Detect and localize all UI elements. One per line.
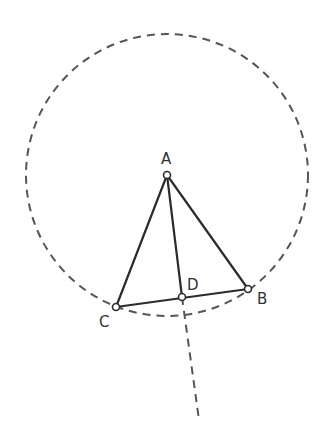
point-b: [245, 286, 252, 293]
point-a: [164, 172, 171, 179]
extension-rays: [182, 297, 199, 420]
geometry-diagram: ABCD: [0, 0, 320, 447]
point-c: [113, 304, 120, 311]
label-a: A: [161, 150, 172, 168]
label-b: B: [257, 290, 267, 308]
triangle-segments: [116, 175, 248, 307]
label-d: D: [187, 276, 199, 294]
segment-ac: [116, 175, 167, 307]
label-c: C: [99, 313, 109, 331]
ray-d-extension: [182, 297, 199, 420]
point-d: [179, 294, 186, 301]
